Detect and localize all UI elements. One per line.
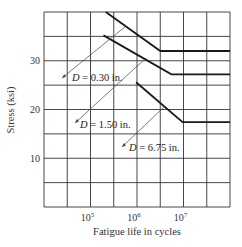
curve-label: D = 0.30 in. [71,72,123,83]
sn-curve-1 [106,12,230,51]
curve-label: D = 6.75 in. [128,142,180,153]
sn-curve-2 [104,35,231,74]
y-tick-label: 30 [30,55,40,66]
fatigue-chart: D = 0.30 in.D = 1.50 in.D = 6.75 in. 102… [0,0,242,247]
y-tick-label: 10 [30,153,40,164]
x-tick-label: 106 [127,211,141,223]
leader-line [62,26,126,78]
x-tick-labels: 105106107 [81,211,188,223]
curve-label: D = 1.50 in. [79,119,131,130]
x-tick-label: 107 [174,211,188,223]
y-tick-labels: 102030 [30,55,40,164]
grid [44,12,230,207]
x-axis-label: Fatigue life in cycles [93,226,181,237]
x-tick-label: 105 [81,211,95,223]
y-tick-label: 20 [30,104,40,115]
leader-line [75,58,146,123]
y-axis-label: Stress (ksi) [5,86,17,133]
curve-labels: D = 0.30 in.D = 1.50 in.D = 6.75 in. [71,72,180,153]
